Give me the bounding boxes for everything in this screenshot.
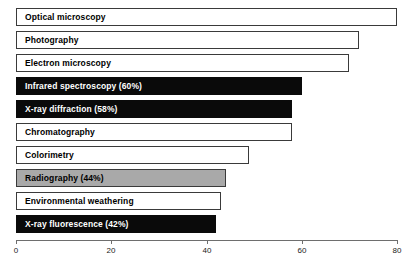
horizontal-bar-chart: Optical microscopyPhotographyElectron mi… bbox=[0, 0, 412, 265]
x-axis-tick bbox=[302, 240, 303, 244]
bar: Radiography (44%) bbox=[16, 169, 226, 187]
bar-label: X-ray diffraction (58%) bbox=[17, 105, 118, 114]
bar: Optical microscopy bbox=[16, 8, 397, 26]
bar-label: Colorimetry bbox=[17, 151, 74, 160]
x-axis-tick-label: 80 bbox=[393, 247, 402, 255]
bar-label: Environmental weathering bbox=[17, 197, 134, 206]
bar: Colorimetry bbox=[16, 146, 249, 164]
x-axis-tick bbox=[111, 240, 112, 244]
bar-label: X-ray fluorescence (42%) bbox=[17, 220, 129, 229]
x-axis-tick bbox=[207, 240, 208, 244]
x-axis-tick bbox=[397, 240, 398, 244]
x-axis-tick-label: 20 bbox=[107, 247, 116, 255]
x-axis-tick-label: 40 bbox=[203, 247, 212, 255]
bar: Environmental weathering bbox=[16, 192, 221, 210]
plot-area: Optical microscopyPhotographyElectron mi… bbox=[0, 0, 412, 240]
x-axis-tick-label: 0 bbox=[14, 247, 18, 255]
x-axis-tick-label: 60 bbox=[298, 247, 307, 255]
bar-label: Chromatography bbox=[17, 128, 95, 137]
bar-label: Infrared spectroscopy (60%) bbox=[17, 82, 142, 91]
bar-label: Optical microscopy bbox=[17, 13, 106, 22]
bar-label: Photography bbox=[17, 36, 79, 45]
x-axis-tick bbox=[16, 240, 17, 244]
bar: Photography bbox=[16, 31, 359, 49]
bar-label: Electron microscopy bbox=[17, 59, 111, 68]
bar: X-ray diffraction (58%) bbox=[16, 100, 292, 118]
bar: X-ray fluorescence (42%) bbox=[16, 215, 216, 233]
bar: Chromatography bbox=[16, 123, 292, 141]
bar-label: Radiography (44%) bbox=[17, 174, 104, 183]
bar: Infrared spectroscopy (60%) bbox=[16, 77, 302, 95]
bar: Electron microscopy bbox=[16, 54, 349, 72]
